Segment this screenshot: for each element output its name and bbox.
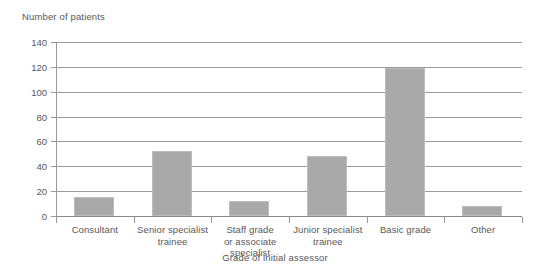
- label-line: Senior specialist: [134, 224, 212, 236]
- x-tick-mark: [289, 217, 290, 223]
- label-line: trainee: [289, 236, 367, 248]
- bar-staff-grade-or-associate-specialist: [229, 201, 269, 216]
- x-tick-mark: [444, 217, 445, 223]
- x-category-label-senior-specialist-trainee: Senior specialist trainee: [134, 224, 212, 247]
- y-tick-label: 60: [7, 136, 47, 147]
- bar-senior-specialist-trainee: [152, 151, 192, 216]
- bar-consultant: [74, 197, 114, 216]
- label-line: or associate: [211, 236, 289, 248]
- gridline-40: [56, 166, 522, 167]
- gridline-20: [56, 191, 522, 192]
- gridline-120: [56, 67, 522, 68]
- label-line: Basic grade: [367, 224, 445, 236]
- y-tick-label: 120: [7, 61, 47, 72]
- y-axis-tick-labels: 140 120 100 80 60 40 20 0: [0, 0, 47, 272]
- label-line: Other: [444, 224, 522, 236]
- x-tick-mark: [367, 217, 368, 223]
- x-category-label-consultant: Consultant: [56, 224, 134, 236]
- x-tick-mark: [134, 217, 135, 223]
- y-tick-label: 100: [7, 86, 47, 97]
- y-tick-label: 40: [7, 161, 47, 172]
- y-tick-label: 140: [7, 37, 47, 48]
- label-line: Staff grade: [211, 224, 289, 236]
- plot-area: [56, 42, 522, 216]
- gridline-140: [56, 42, 522, 43]
- bar-basic-grade: [385, 68, 425, 216]
- label-line: Junior specialist: [289, 224, 367, 236]
- label-line: Consultant: [56, 224, 134, 236]
- bar-junior-specialist-trainee: [307, 156, 347, 216]
- x-category-label-other: Other: [444, 224, 522, 236]
- bar-chart-figure: Number of patients 140 120 100 80 60 40 …: [0, 0, 550, 272]
- y-tick-label: 0: [7, 211, 47, 222]
- gridline-100: [56, 92, 522, 93]
- x-axis-title: Grade of initial assessor: [0, 252, 550, 263]
- x-category-label-junior-specialist-trainee: Junior specialist trainee: [289, 224, 367, 247]
- y-tick-label: 20: [7, 186, 47, 197]
- y-tick-label: 80: [7, 111, 47, 122]
- x-category-label-basic-grade: Basic grade: [367, 224, 445, 236]
- bar-other: [462, 206, 502, 216]
- gridline-80: [56, 117, 522, 118]
- gridline-60: [56, 141, 522, 142]
- x-tick-mark: [56, 217, 57, 223]
- x-tick-mark: [522, 217, 523, 223]
- label-line: trainee: [134, 236, 212, 248]
- x-tick-mark: [211, 217, 212, 223]
